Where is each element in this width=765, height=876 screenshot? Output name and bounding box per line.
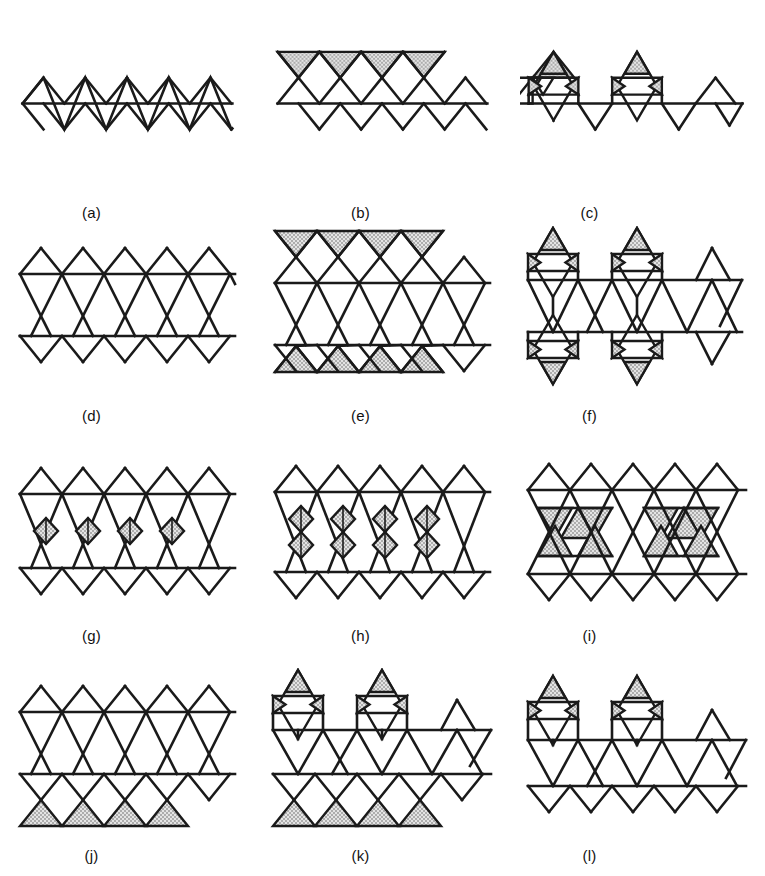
panel-label-g: (g) [82,628,101,643]
panel-i: (i) [510,440,765,660]
panel-h-diagram [265,448,500,616]
panel-g: (g) [0,440,255,660]
panel-i-diagram [520,448,755,616]
panel-label-e: (e) [351,408,370,423]
panel-label-j: (j) [85,848,99,863]
panel-label-c: (c) [580,205,598,220]
panel-f: (f) [510,220,765,440]
panel-label-i: (i) [583,628,597,643]
panel-j: (j) [0,660,255,876]
panel-e: (e) [255,220,510,440]
panel-label-l: (l) [583,848,597,863]
panel-d-diagram [10,226,245,394]
panel-k-diagram [265,668,500,836]
panel-g-diagram [10,448,245,616]
panel-h: (h) [255,440,510,660]
panel-label-b: (b) [351,205,370,220]
panel-c: (c) [510,0,765,220]
panel-j-diagram [10,668,245,836]
panel-a: (a) [0,0,255,220]
panel-label-d: (d) [82,408,101,423]
panel-d: (d) [0,220,255,440]
panel-e-diagram [265,226,500,394]
panel-l: (l) [510,660,765,876]
panel-k: (k) [255,660,510,876]
panel-b: (b) [255,0,510,220]
figure-grid: (a) [0,0,765,876]
panel-label-a: (a) [82,205,101,220]
panel-b-diagram [265,26,500,193]
panel-a-diagram [10,26,245,193]
panel-label-h: (h) [351,628,370,643]
panel-label-k: (k) [351,848,369,863]
panel-label-f: (f) [582,408,597,423]
panel-f-diagram [520,226,755,394]
panel-c-diagram [520,26,755,193]
panel-l-diagram [520,668,755,836]
